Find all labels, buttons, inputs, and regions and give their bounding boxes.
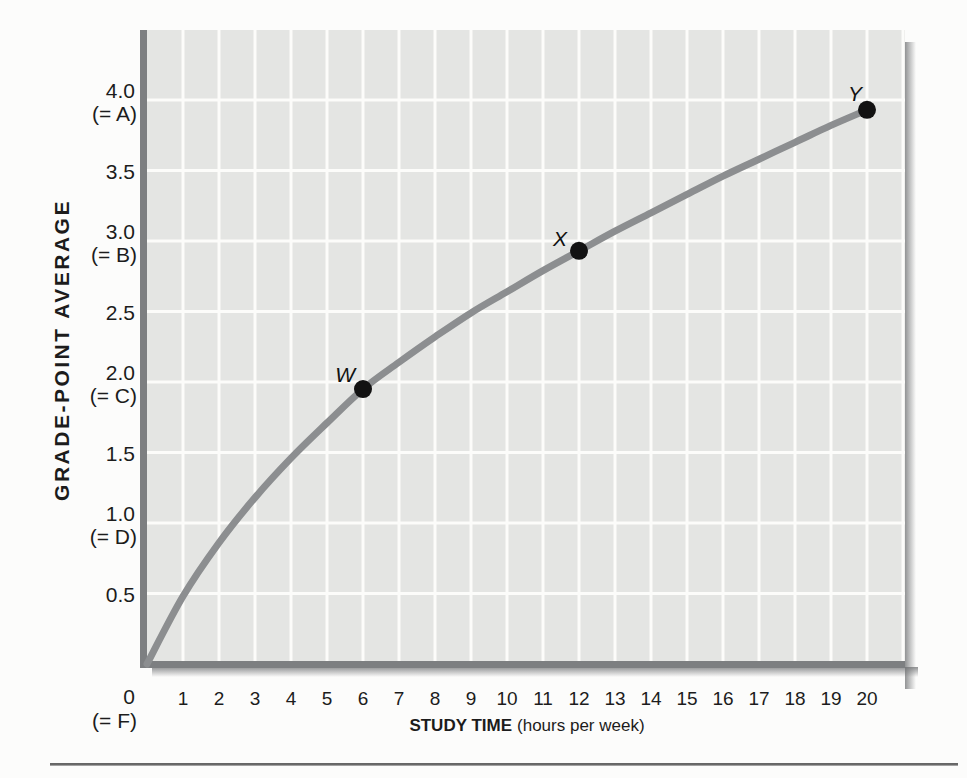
x-tick-label: 5 [322, 688, 333, 709]
x-tick-label: 12 [568, 688, 589, 709]
y-tick-label: 2.0 [106, 361, 135, 384]
x-tick-label: 17 [748, 688, 769, 709]
point-label-y: Y [848, 82, 864, 105]
x-tick-label: 10 [496, 688, 517, 709]
y-tick-grade-label: (= D) [90, 525, 137, 548]
x-tick-label: 19 [820, 688, 841, 709]
panel-shadow-right [905, 42, 916, 689]
y-tick-grade-label: (= F) [92, 709, 137, 732]
panel-shadow-bottom [152, 667, 918, 677]
x-tick-label: 11 [533, 688, 553, 709]
x-tick-label: 2 [214, 688, 225, 709]
y-tick-label: 3.5 [106, 160, 135, 183]
y-tick-label: 0.5 [106, 583, 135, 606]
gpa-study-time-chart: WXY12345678910111213141516171819204.0(= … [0, 0, 967, 778]
y-tick-label: 3.0 [106, 220, 135, 243]
data-point-x [570, 242, 588, 260]
x-axis-title-main: STUDY TIME [409, 716, 512, 735]
x-tick-label: 15 [676, 688, 697, 709]
bottom-rule [50, 763, 958, 766]
y-axis-title: GRADE-POINT AVERAGE [50, 199, 74, 501]
x-axis-title-unit: (hours per week) [517, 716, 645, 735]
x-tick-label: 18 [784, 688, 805, 709]
x-tick-label: 9 [466, 688, 477, 709]
x-axis-title: STUDY TIME(hours per week) [409, 716, 644, 736]
plot-area [147, 30, 905, 661]
y-axis-line [140, 30, 147, 668]
y-tick-label: 1.5 [106, 442, 135, 465]
point-label-w: W [335, 363, 357, 386]
y-tick-label: 1.0 [106, 502, 135, 525]
gpa-study-time-figure: WXY12345678910111213141516171819204.0(= … [0, 0, 967, 778]
x-tick-label: 16 [712, 688, 733, 709]
y-tick-grade-label: (= B) [91, 243, 137, 266]
data-point-w [354, 380, 372, 398]
y-tick-label: 4.0 [106, 79, 135, 102]
x-axis-line [140, 661, 905, 668]
x-tick-label: 7 [394, 688, 405, 709]
x-tick-label: 1 [178, 688, 189, 709]
x-tick-label: 3 [250, 688, 261, 709]
x-tick-label: 8 [430, 688, 441, 709]
y-tick-grade-label: (= C) [90, 384, 137, 407]
y-tick-label: 0 [123, 685, 135, 708]
x-tick-label: 14 [640, 688, 662, 709]
x-tick-label: 13 [604, 688, 625, 709]
point-label-x: X [552, 227, 568, 250]
y-tick-grade-label: (= A) [92, 102, 137, 125]
x-tick-label: 20 [856, 688, 877, 709]
x-tick-label: 4 [286, 688, 297, 709]
x-tick-label: 6 [358, 688, 369, 709]
y-tick-label: 2.5 [106, 301, 135, 324]
